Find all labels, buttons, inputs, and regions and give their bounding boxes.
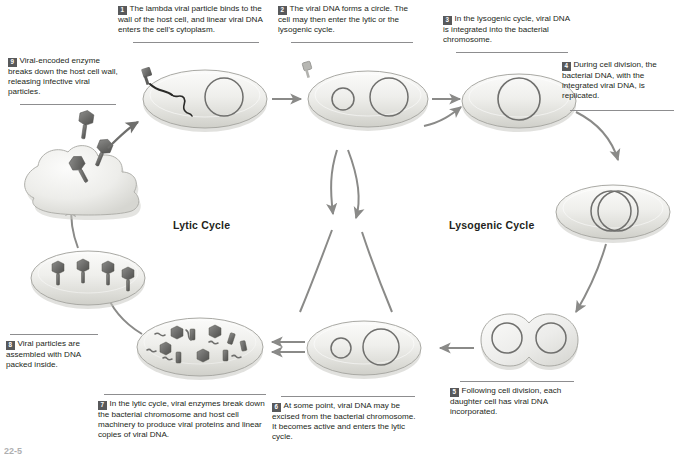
step-text-2: The viral DNA forms a circle. The cell m… (278, 4, 408, 34)
step-badge-9: 9 (8, 58, 17, 67)
step-text-4: During cell division, the bacterial DNA,… (562, 60, 657, 100)
callout-step-2: 2The viral DNA forms a circle. The cell … (278, 4, 418, 35)
phage-empty-capsid-step-2 (302, 61, 312, 78)
step-text-6: At some point, viral DNA may be excised … (272, 401, 416, 441)
arrow-into-step-3 (424, 107, 461, 126)
phage-attached-step-1 (141, 67, 152, 85)
step-text-9: Viral-encoded enzyme breaks down the hos… (8, 56, 118, 96)
callout-rule-1 (133, 42, 259, 43)
step-badge-2: 2 (278, 6, 287, 15)
step-badge-4: 4 (562, 62, 571, 71)
callout-step-9: 9Viral-encoded enzyme breaks down the ho… (8, 56, 120, 98)
cell-lysed-step-9 (25, 110, 141, 220)
step-badge-7: 7 (98, 401, 107, 410)
step-text-3: In the lysogenic cycle, viral DNA is int… (443, 14, 570, 44)
callout-rule-9 (20, 104, 116, 105)
arc-lysogenic-center (362, 232, 392, 312)
label-lytic-cycle: Lytic Cycle (173, 219, 230, 231)
step-badge-5: 5 (450, 388, 459, 397)
callout-step-6: 6At some point, viral DNA may be excised… (272, 401, 420, 443)
callout-step-7: 7In the lytic cycle, viral enzymes break… (98, 399, 274, 441)
arc-lytic-center (300, 230, 332, 312)
callout-step-5: 5Following cell division, each daughter … (450, 386, 576, 417)
step-badge-1: 1 (118, 6, 127, 15)
callout-rule-2 (291, 42, 413, 43)
cell-step-4 (556, 185, 670, 243)
cell-step-5 (481, 314, 578, 370)
step-text-7: In the lytic cycle, viral enzymes break … (98, 399, 265, 439)
callout-rule-3 (456, 52, 568, 53)
callout-rule-8 (10, 334, 98, 335)
step-badge-8: 8 (6, 341, 15, 350)
callout-rule-4 (570, 110, 674, 111)
arrow-release-to-step-1 (108, 122, 138, 148)
callout-step-3: 3In the lysogenic cycle, viral DNA is in… (443, 14, 573, 45)
arrow-4-to-5 (576, 244, 606, 312)
callout-step-8: 8Viral particles are assembled with DNA … (6, 339, 106, 370)
cell-step-1 (141, 67, 267, 132)
arrow-branch-to-lytic (331, 150, 337, 214)
label-lysogenic-cycle: Lysogenic Cycle (449, 219, 534, 231)
step-text-8: Viral particles are assembled with DNA p… (6, 339, 81, 369)
cell-step-2 (302, 61, 428, 131)
callout-rule-5 (460, 381, 574, 382)
step-text-5: Following cell division, each daughter c… (450, 386, 561, 416)
page-number: 22-5 (4, 446, 22, 456)
callout-step-4: 4During cell division, the bacterial DNA… (562, 60, 678, 102)
callout-rule-7 (104, 394, 266, 395)
cell-step-7-8 (137, 318, 263, 380)
callout-rule-6 (281, 396, 415, 397)
step-text-1: The lambda viral particle binds to the w… (118, 4, 262, 34)
arrow-3-to-4 (576, 112, 618, 160)
cell-step-3 (462, 74, 576, 132)
callout-step-1: 1The lambda viral particle binds to the … (118, 4, 264, 35)
cell-step-8 (31, 251, 145, 309)
figure-canvas: 1The lambda viral particle binds to the … (0, 0, 680, 461)
arrow-branch-to-lysogenic (348, 150, 359, 218)
cell-step-6 (307, 321, 421, 379)
step-badge-3: 3 (443, 16, 452, 25)
